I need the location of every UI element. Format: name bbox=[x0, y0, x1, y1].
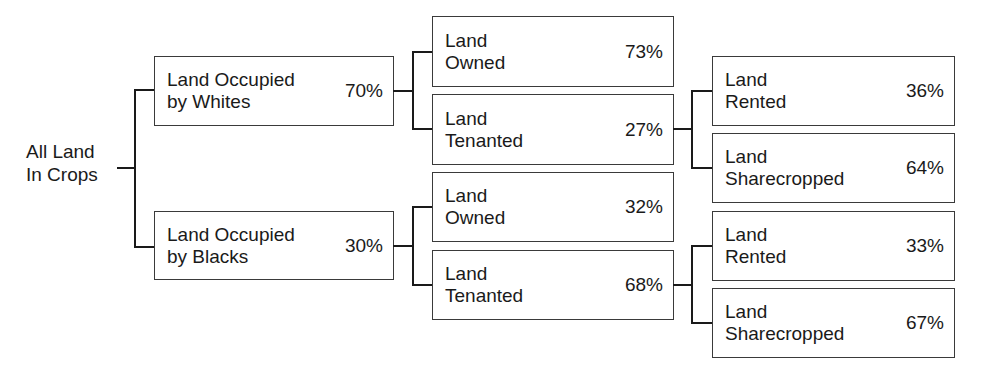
connector-root-vertical bbox=[134, 89, 136, 248]
node-label: Land Owned bbox=[445, 30, 505, 74]
node-blacks-land-tenanted: Land Tenanted 68% bbox=[432, 250, 674, 320]
connector-blacks-vertical bbox=[412, 206, 414, 285]
connector-to-whites-rented bbox=[691, 90, 713, 92]
node-label: Land Owned bbox=[445, 185, 505, 229]
node-percent: 73% bbox=[625, 41, 663, 63]
node-label: Land Tenanted bbox=[445, 263, 523, 307]
root-label-all-land-in-crops: All Land In Crops bbox=[26, 140, 98, 186]
node-percent: 32% bbox=[625, 196, 663, 218]
node-label: Land Rented bbox=[725, 224, 786, 268]
node-blacks-land-rented: Land Rented 33% bbox=[712, 211, 955, 281]
node-label: Land Occupied by Whites bbox=[167, 69, 295, 113]
node-percent: 36% bbox=[906, 80, 944, 102]
connector-to-blacks-rented bbox=[691, 245, 713, 247]
connector-to-whites-sharecropped bbox=[691, 167, 713, 169]
node-blacks-land-sharecropped: Land Sharecropped 67% bbox=[712, 288, 955, 358]
node-whites-land-tenanted: Land Tenanted 27% bbox=[432, 94, 674, 165]
node-blacks-land-owned: Land Owned 32% bbox=[432, 172, 674, 242]
connector-root-to-blacks bbox=[134, 246, 155, 248]
node-percent: 70% bbox=[345, 80, 383, 102]
connector-blacks-tenanted-vertical bbox=[691, 245, 693, 324]
connector-root-to-whites bbox=[134, 89, 155, 91]
node-whites-land-sharecropped: Land Sharecropped 64% bbox=[712, 133, 955, 203]
connector-blacks-stub bbox=[393, 245, 414, 247]
connector-blacks-tenanted-stub bbox=[673, 284, 693, 286]
node-percent: 30% bbox=[345, 235, 383, 257]
node-percent: 64% bbox=[906, 157, 944, 179]
node-whites-land-owned: Land Owned 73% bbox=[432, 16, 674, 87]
connector-whites-vertical bbox=[412, 51, 414, 130]
node-label: Land Occupied by Blacks bbox=[167, 224, 295, 268]
node-whites-land-rented: Land Rented 36% bbox=[712, 56, 955, 126]
node-percent: 27% bbox=[625, 119, 663, 141]
connector-whites-to-tenanted bbox=[412, 128, 433, 130]
node-label: Land Sharecropped bbox=[725, 146, 844, 190]
connector-blacks-to-tenanted bbox=[412, 284, 433, 286]
node-label: Land Sharecropped bbox=[725, 301, 844, 345]
node-land-occupied-by-blacks: Land Occupied by Blacks 30% bbox=[154, 211, 394, 280]
node-percent: 68% bbox=[625, 274, 663, 296]
connector-whites-tenanted-vertical bbox=[691, 90, 693, 169]
node-label: Land Rented bbox=[725, 69, 786, 113]
connector-whites-stub bbox=[393, 90, 414, 92]
node-land-occupied-by-whites: Land Occupied by Whites 70% bbox=[154, 56, 394, 126]
node-percent: 67% bbox=[906, 312, 944, 334]
node-percent: 33% bbox=[906, 235, 944, 257]
connector-blacks-to-owned bbox=[412, 206, 433, 208]
connector-to-blacks-sharecropped bbox=[691, 322, 713, 324]
connector-whites-tenanted-stub bbox=[673, 128, 693, 130]
node-label: Land Tenanted bbox=[445, 108, 523, 152]
connector-whites-to-owned bbox=[412, 51, 433, 53]
